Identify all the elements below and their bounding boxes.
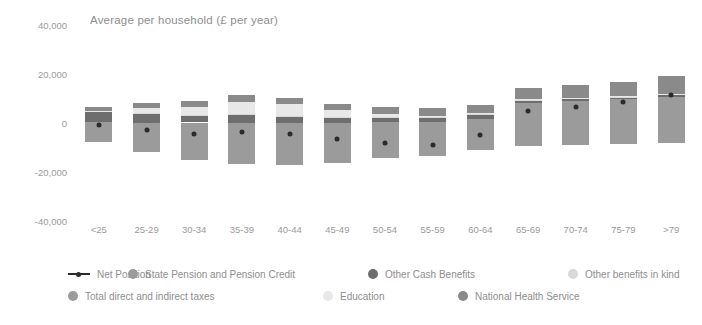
legend-item[interactable]: Other Cash Benefits bbox=[368, 269, 475, 280]
bar-segment bbox=[419, 123, 446, 156]
bar-segment bbox=[276, 116, 303, 117]
bar-segment bbox=[276, 98, 303, 105]
bar-segment bbox=[372, 117, 399, 118]
net-position-marker bbox=[669, 92, 674, 97]
bar-segment bbox=[419, 118, 446, 122]
bar-segment bbox=[419, 117, 446, 118]
bar-segment bbox=[658, 97, 685, 123]
legend-dot-marker-icon bbox=[458, 291, 468, 301]
bar-group bbox=[228, 25, 255, 221]
bar-segment bbox=[276, 104, 303, 116]
bar-segment bbox=[419, 116, 446, 117]
legend-item[interactable]: Total direct and indirect taxes bbox=[68, 291, 215, 302]
x-axis-labels: <2525-2930-3435-3940-4445-4950-5455-5960… bbox=[75, 224, 695, 240]
y-axis-tick: 40,000 bbox=[38, 20, 67, 31]
net-position-marker bbox=[573, 104, 578, 109]
bar-segment bbox=[467, 113, 494, 114]
bar-segment bbox=[181, 115, 208, 116]
net-position-marker bbox=[144, 128, 149, 133]
legend-item[interactable]: Education bbox=[323, 291, 384, 302]
bar-segment bbox=[85, 107, 112, 111]
legend-dot-marker-icon bbox=[368, 269, 378, 279]
bar-segment bbox=[228, 115, 255, 122]
bar-segment bbox=[562, 99, 589, 101]
chart-root: Average per household (£ per year) 40,00… bbox=[0, 0, 702, 325]
plot-area: 40,00020,0000-20,000-40,000 bbox=[75, 25, 695, 221]
legend-label: Other Cash Benefits bbox=[385, 269, 475, 280]
net-position-marker bbox=[287, 132, 292, 137]
x-axis-tick: <25 bbox=[76, 224, 122, 235]
x-axis-tick: 75-79 bbox=[600, 224, 646, 235]
y-axis-tick: 20,000 bbox=[38, 69, 67, 80]
bar-segment bbox=[372, 114, 399, 118]
bar-segment bbox=[324, 118, 351, 123]
net-position-marker bbox=[383, 141, 388, 146]
bar-segment bbox=[515, 99, 542, 100]
legend-dot-marker-icon bbox=[568, 269, 578, 279]
bar-group bbox=[419, 25, 446, 221]
bar-segment bbox=[610, 96, 637, 97]
bar-segment bbox=[276, 117, 303, 123]
bar-segment bbox=[324, 110, 351, 117]
x-axis-tick: 25-29 bbox=[124, 224, 170, 235]
x-axis-tick: 55-59 bbox=[410, 224, 456, 235]
bar-segment bbox=[324, 123, 351, 163]
bar-segment bbox=[610, 123, 637, 144]
x-axis-tick: 45-49 bbox=[314, 224, 360, 235]
legend-item[interactable]: National Health Service bbox=[458, 291, 580, 302]
net-position-marker bbox=[192, 132, 197, 137]
bar-segment bbox=[181, 123, 208, 160]
y-axis-tick: -40,000 bbox=[35, 216, 67, 227]
bar-segment bbox=[228, 102, 255, 114]
bar-segment bbox=[133, 108, 160, 113]
x-axis-tick: 60-64 bbox=[457, 224, 503, 235]
bar-segment bbox=[658, 76, 685, 94]
bar-group bbox=[658, 25, 685, 221]
legend-label: State Pension and Pension Credit bbox=[145, 269, 295, 280]
y-axis-tick: -20,000 bbox=[35, 167, 67, 178]
bar-segment bbox=[85, 112, 112, 122]
bar-segment bbox=[181, 116, 208, 122]
bar-segment bbox=[228, 95, 255, 102]
x-axis-tick: 70-74 bbox=[553, 224, 599, 235]
bar-segment bbox=[372, 118, 399, 122]
x-axis-tick: >79 bbox=[648, 224, 694, 235]
x-axis-tick: 50-54 bbox=[362, 224, 408, 235]
bar-group bbox=[372, 25, 399, 221]
bar-segment bbox=[515, 101, 542, 103]
x-axis-tick: 65-69 bbox=[505, 224, 551, 235]
legend-row: Total direct and indirect taxesEducation… bbox=[68, 285, 688, 307]
bar-group bbox=[181, 25, 208, 221]
legend-item[interactable]: State Pension and Pension Credit bbox=[128, 269, 295, 280]
bar-segment bbox=[228, 114, 255, 115]
legend-row: Net PositionState Pension and Pension Cr… bbox=[68, 263, 688, 285]
net-position-marker bbox=[430, 142, 435, 147]
bar-segment bbox=[562, 85, 589, 98]
bar-segment bbox=[562, 98, 589, 99]
bar-segment bbox=[515, 123, 542, 146]
net-position-marker bbox=[239, 130, 244, 135]
net-position-marker bbox=[621, 99, 626, 104]
bar-group bbox=[133, 25, 160, 221]
bar-segment bbox=[133, 114, 160, 122]
x-axis-tick: 35-39 bbox=[219, 224, 265, 235]
bar-segment bbox=[610, 82, 637, 97]
bar-segment bbox=[181, 101, 208, 107]
net-position-marker bbox=[478, 133, 483, 138]
legend-label: Other benefits in kind bbox=[585, 269, 680, 280]
bar-segment bbox=[181, 107, 208, 115]
legend-dot-marker-icon bbox=[128, 269, 138, 279]
x-axis-tick: 40-44 bbox=[267, 224, 313, 235]
legend-label: Education bbox=[340, 291, 384, 302]
bar-segment bbox=[658, 123, 685, 143]
bar-segment bbox=[467, 105, 494, 114]
bar-segment bbox=[276, 123, 303, 165]
legend-label: Total direct and indirect taxes bbox=[85, 291, 215, 302]
bar-segment bbox=[324, 117, 351, 118]
legend-dot-marker-icon bbox=[68, 291, 78, 301]
bar-segment bbox=[467, 115, 494, 119]
legend-dot-marker-icon bbox=[323, 291, 333, 301]
legend-item[interactable]: Other benefits in kind bbox=[568, 269, 680, 280]
bar-group bbox=[562, 25, 589, 221]
x-axis-tick: 30-34 bbox=[171, 224, 217, 235]
